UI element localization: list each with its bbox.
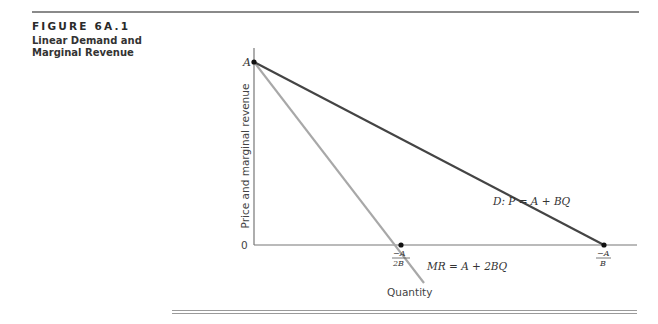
bottom-rule [172, 313, 637, 314]
bottom-rule [172, 310, 637, 311]
x-axis-label: Quantity [387, 286, 432, 298]
label-a: A [242, 56, 251, 69]
label-d-den: B [599, 259, 606, 268]
chart-canvas: A 0 −A 2B −A B D: P = A + BQ MR = A + 2B… [0, 0, 658, 324]
point-demand-intercept [601, 242, 606, 247]
point-mr-intercept [398, 242, 403, 247]
demand-line [254, 62, 604, 245]
y-axis-label: Price and marginal revenue [239, 71, 251, 241]
label-d-num: −A [597, 249, 610, 258]
point-a [251, 59, 256, 64]
label-mr-num: −A [393, 249, 406, 258]
mr-label: MR = A + 2BQ [426, 260, 508, 273]
demand-label: D: P = A + BQ [492, 195, 571, 208]
label-mr-den: 2B [392, 259, 404, 268]
